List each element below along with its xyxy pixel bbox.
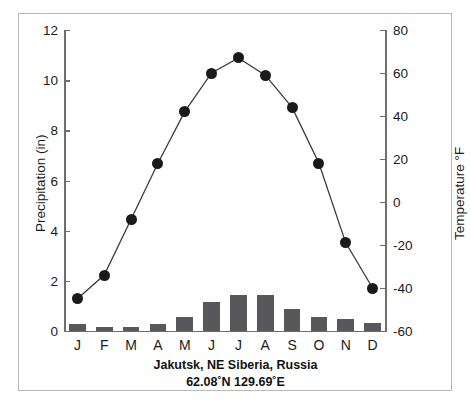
month-label: F bbox=[91, 338, 118, 352]
month-label: S bbox=[279, 338, 306, 352]
month-label: A bbox=[252, 338, 279, 352]
month-label: J bbox=[225, 338, 252, 352]
month-label: M bbox=[118, 338, 145, 352]
month-label: A bbox=[145, 338, 172, 352]
temperature-marker bbox=[287, 102, 298, 113]
temperature-marker bbox=[126, 214, 137, 225]
coordinates-subtitle: 62.08˚N 129.69˚E bbox=[0, 374, 471, 391]
chart-title-block: Jakutsk, NE Siberia, Russia 62.08˚N 129.… bbox=[0, 357, 471, 390]
climograph-plot: 12 10 8 6 4 2 0 80 60 40 20 0 -20 -40 -6… bbox=[0, 0, 471, 407]
month-label: N bbox=[332, 338, 359, 352]
temperature-marker bbox=[260, 70, 271, 81]
month-label: J bbox=[198, 338, 225, 352]
month-label: M bbox=[171, 338, 198, 352]
month-label: D bbox=[359, 338, 386, 352]
month-label: J bbox=[64, 338, 91, 352]
month-label: O bbox=[306, 338, 333, 352]
temperature-marker bbox=[367, 283, 378, 294]
temperature-marker bbox=[99, 270, 110, 281]
page-title: Jakutsk, NE Siberia, Russia bbox=[0, 357, 471, 374]
temperature-marker bbox=[206, 68, 217, 79]
